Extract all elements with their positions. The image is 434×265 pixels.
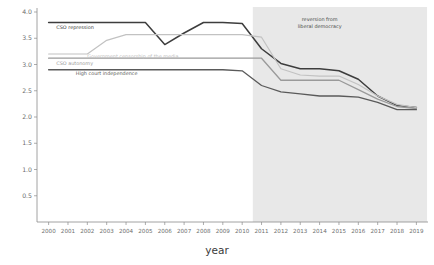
x-tick-label: 2014 bbox=[312, 228, 327, 234]
x-axis-title: year bbox=[205, 244, 229, 256]
x-tick-label: 2018 bbox=[390, 228, 405, 234]
x-tick-label: 2002 bbox=[80, 228, 94, 234]
reversion-shade bbox=[253, 7, 427, 222]
chart-series-labels: CSO repressionGovernment censorship of t… bbox=[56, 24, 178, 77]
x-tick-label: 2011 bbox=[254, 228, 269, 234]
y-tick-label: 3.5 bbox=[22, 34, 32, 41]
x-tick-label: 2010 bbox=[235, 228, 250, 234]
x-tick-label: 2008 bbox=[196, 228, 211, 234]
series-label-2: CSO autonomy bbox=[56, 60, 93, 67]
chart-annotation: reversion fromliberal democracy bbox=[298, 16, 342, 30]
x-tick-label: 2000 bbox=[41, 228, 56, 234]
annotation-line-1: reversion from bbox=[302, 16, 338, 22]
x-tick-label: 2013 bbox=[293, 228, 308, 234]
x-tick-label: 2007 bbox=[177, 228, 192, 234]
x-tick-label: 2004 bbox=[119, 228, 134, 234]
shaded-reversion-region bbox=[253, 7, 427, 222]
x-tick-label: 2012 bbox=[274, 228, 288, 234]
x-tick-label: 2015 bbox=[332, 228, 347, 234]
y-tick-label: 3.0 bbox=[22, 61, 32, 68]
annotation-line-2: liberal democracy bbox=[298, 23, 342, 30]
y-tick-label: 2.0 bbox=[22, 113, 32, 120]
x-tick-label: 2005 bbox=[138, 228, 153, 234]
y-tick-label: 0.5 bbox=[22, 192, 32, 199]
y-tick-label: 2.5 bbox=[22, 87, 32, 94]
x-tick-label: 2016 bbox=[351, 228, 366, 234]
series-label-3: High court independence bbox=[76, 70, 138, 77]
x-tick-label: 2006 bbox=[158, 228, 173, 234]
y-tick-label: 1.0 bbox=[22, 166, 32, 173]
x-tick-label: 2017 bbox=[371, 228, 386, 234]
y-tick-label: 1.5 bbox=[22, 139, 32, 146]
series-label-1: Government censorship of the media bbox=[87, 53, 178, 60]
x-tick-label: 2001 bbox=[61, 228, 76, 234]
y-tick-label: 4.0 bbox=[22, 8, 32, 15]
chart-container: 0.51.01.52.02.53.03.54.02000200120022003… bbox=[0, 0, 434, 265]
x-tick-label: 2003 bbox=[100, 228, 115, 234]
series-label-0: CSO repression bbox=[56, 24, 93, 31]
line-chart: 0.51.01.52.02.53.03.54.02000200120022003… bbox=[0, 0, 434, 265]
x-tick-label: 2009 bbox=[216, 228, 231, 234]
x-tick-label: 2019 bbox=[409, 228, 424, 234]
